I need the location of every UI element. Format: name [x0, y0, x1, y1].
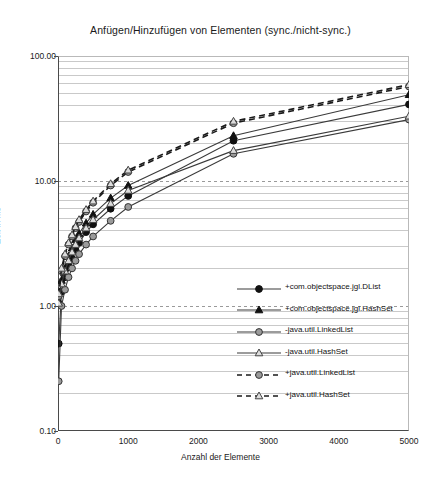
data-point — [76, 251, 83, 258]
data-point — [255, 349, 263, 356]
x-tick-label: 2000 — [189, 436, 208, 446]
y-tick-mark — [54, 431, 58, 432]
legend-marker-gray-circle-icon — [236, 324, 282, 336]
legend-marker-open-triangle-icon — [236, 388, 282, 400]
legend-label: +com.objectspace.jgl.DList — [285, 282, 380, 291]
data-point — [406, 101, 409, 108]
chart-title: Anfügen/Hinzufügen von Elementen (sync./… — [0, 24, 441, 36]
legend-label: -java.util.LinkedList — [285, 325, 353, 334]
chart-legend: +com.objectspace.jgl.DList+com.objectspa… — [236, 276, 416, 405]
legend-item[interactable]: -java.util.LinkedList — [236, 319, 416, 341]
legend-item[interactable]: +com.objectspace.jgl.HashSet — [236, 298, 416, 320]
legend-marker-filled-triangle-icon — [236, 302, 282, 314]
x-tick-label: 3000 — [259, 436, 278, 446]
data-point — [255, 306, 263, 313]
data-point — [72, 257, 79, 264]
data-point — [125, 204, 132, 211]
y-tick-label: 1.00 — [10, 301, 56, 311]
legend-item[interactable]: -java.util.HashSet — [236, 341, 416, 363]
data-point — [405, 112, 409, 119]
y-tick-label: 100.00 — [10, 51, 56, 61]
x-tick-label: 5000 — [400, 436, 419, 446]
data-point — [256, 328, 263, 335]
x-tick-label: 4000 — [329, 436, 348, 446]
data-point — [256, 371, 263, 378]
legend-label: +java.util.LinkedList — [285, 368, 355, 377]
legend-label: +com.objectspace.jgl.HashSet — [285, 304, 393, 313]
legend-marker-gray-circle-icon — [236, 367, 282, 379]
legend-item[interactable]: +java.util.LinkedList — [236, 362, 416, 384]
x-tick-label: 1000 — [119, 436, 138, 446]
legend-label: -java.util.HashSet — [285, 347, 348, 356]
data-point — [405, 91, 409, 98]
y-axis-title: Zeit in ms — [0, 207, 2, 244]
x-axis-title: Anzahl der Elemente — [0, 452, 441, 462]
chart-container: Anfügen/Hinzufügen von Elementen (sync./… — [0, 0, 441, 488]
data-point — [256, 285, 263, 292]
data-point — [83, 241, 90, 248]
data-point — [107, 217, 114, 224]
data-point — [62, 286, 69, 293]
data-point — [90, 233, 97, 240]
data-point — [405, 81, 409, 88]
legend-marker-filled-circle-icon — [236, 281, 282, 293]
legend-label: +java.util.HashSet — [285, 390, 350, 399]
data-point — [69, 265, 76, 272]
legend-marker-open-triangle-icon — [236, 345, 282, 357]
legend-item[interactable]: +java.util.HashSet — [236, 384, 416, 406]
y-tick-label: 0.10 — [10, 426, 56, 436]
data-point — [65, 274, 72, 281]
legend-item[interactable]: +com.objectspace.jgl.DList — [236, 276, 416, 298]
y-tick-label: 10.00 — [10, 176, 56, 186]
x-tick-label: 0 — [56, 436, 61, 446]
data-point — [58, 378, 62, 385]
